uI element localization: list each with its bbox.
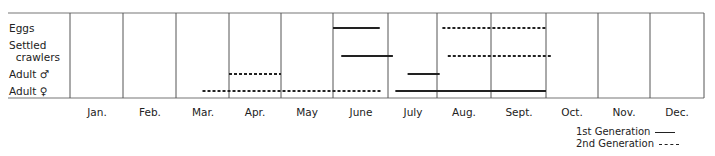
- row-label-adult-male: Adult ♂: [9, 68, 49, 80]
- month-label-oct: Oct.: [561, 106, 583, 118]
- legend-label-first: 1st Generation: [576, 126, 650, 138]
- month-label-july: July: [404, 106, 423, 118]
- legend-item-second-generation: 2nd Generation: [576, 138, 679, 150]
- month-label-dec: Dec.: [665, 106, 689, 118]
- month-label-apr: Apr.: [245, 106, 266, 118]
- generation-bars: [203, 28, 552, 91]
- month-label-june: June: [350, 106, 373, 118]
- dashed-line-icon: [659, 144, 679, 145]
- row-label-settled: Settled: [9, 39, 46, 51]
- month-label-sept: Sept.: [505, 106, 532, 118]
- row-label-crawlers: crawlers: [9, 51, 60, 63]
- generation-chart: Eggs Settled crawlers Adult ♂ Adult ♀ Ja…: [0, 0, 715, 156]
- month-label-mar: Mar.: [192, 106, 214, 118]
- legend: 1st Generation 2nd Generation: [576, 126, 679, 150]
- legend-item-first-generation: 1st Generation: [576, 126, 679, 138]
- month-label-may: May: [296, 106, 318, 118]
- solid-line-icon: [655, 132, 675, 133]
- row-label-adult-female: Adult ♀: [9, 85, 47, 97]
- legend-label-second: 2nd Generation: [576, 138, 654, 150]
- row-label-eggs: Eggs: [9, 22, 34, 34]
- month-label-feb: Feb.: [139, 106, 161, 118]
- month-label-aug: Aug.: [452, 106, 476, 118]
- month-label-nov: Nov.: [612, 106, 635, 118]
- month-label-jan: Jan.: [87, 106, 107, 118]
